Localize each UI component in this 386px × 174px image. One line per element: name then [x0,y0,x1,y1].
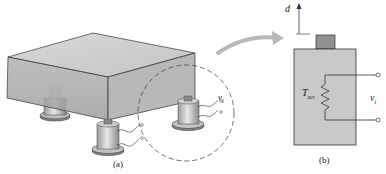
element-label: Tact [302,88,315,100]
displacement-label: d [285,4,290,14]
platform-box [7,33,195,120]
panel-b-caption: (b) [319,156,330,165]
panel-b-signal-label: vi [370,93,376,105]
arrow-up-icon [297,3,302,9]
terminal-bottom [376,118,380,122]
sensor-cap [316,35,335,49]
sensor-schematic [294,3,380,145]
terminal-top [376,73,380,77]
sensor-front [92,119,143,156]
panel-a-caption: (a) [113,160,123,169]
zoom-arrow-icon [218,31,284,53]
diagram-canvas [0,0,386,174]
panel-a-signal-label: vi [218,93,224,104]
